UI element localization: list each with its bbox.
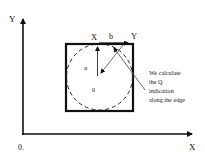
annotation-line-1: We calculate bbox=[149, 69, 181, 76]
annotation-line-4: along the edge bbox=[149, 96, 185, 103]
center-label: 0 bbox=[92, 87, 95, 93]
diagram-canvas: Y X 0. X b Y a 0 We calculate the Q indi… bbox=[0, 0, 205, 158]
radius-a-label: a bbox=[84, 64, 88, 72]
y-axis-label: Y bbox=[9, 14, 16, 24]
edge-b-label: b bbox=[109, 32, 113, 41]
annotation-line-2: the Q bbox=[149, 78, 163, 85]
square-x-label: X bbox=[91, 32, 97, 42]
annotation-line-3: indication bbox=[149, 87, 174, 94]
square-y-label: Y bbox=[131, 31, 137, 41]
diagonal-arrow bbox=[101, 45, 123, 73]
origin-label: 0. bbox=[18, 143, 24, 152]
x-axis-label: X bbox=[189, 142, 196, 152]
inscribed-circle bbox=[67, 44, 133, 110]
annotation-pointer bbox=[114, 48, 145, 90]
